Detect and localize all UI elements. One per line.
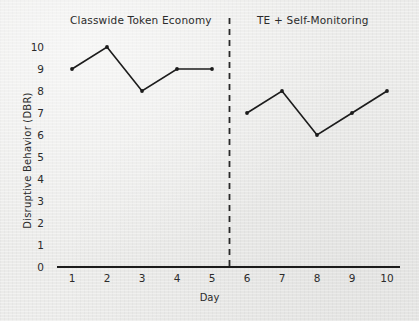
data-point-day-7 <box>280 89 284 93</box>
data-point-day-3 <box>140 89 144 93</box>
single-case-design-chart: Classwide Token Economy TE + Self-Monito… <box>0 0 419 321</box>
data-point-day-4 <box>175 67 179 71</box>
data-point-day-2 <box>105 45 109 49</box>
data-point-day-9 <box>350 111 354 115</box>
data-point-day-10 <box>385 89 389 93</box>
data-point-day-1 <box>70 67 74 71</box>
data-line-classwide-token-economy <box>72 47 212 91</box>
data-point-day-8 <box>315 133 319 137</box>
data-point-day-6 <box>245 111 249 115</box>
data-line-te-self-monitoring <box>247 91 387 135</box>
plot-area <box>0 0 419 321</box>
data-point-day-5 <box>210 67 214 71</box>
